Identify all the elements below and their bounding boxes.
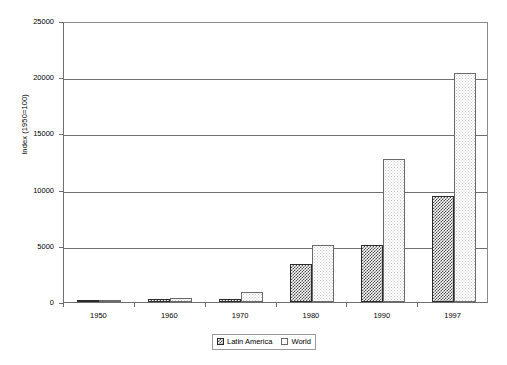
bar-world-1980 bbox=[312, 245, 334, 302]
x-tick-label: 1950 bbox=[90, 311, 107, 320]
gridline bbox=[64, 135, 487, 136]
bar-world-1950 bbox=[99, 300, 121, 302]
bar-latin-america-1960 bbox=[148, 299, 170, 302]
x-tick-mark bbox=[205, 303, 206, 307]
x-tick-mark bbox=[346, 303, 347, 307]
y-axis-ticks: 0500010000150002000025000 bbox=[0, 0, 63, 365]
bar-world-1970 bbox=[241, 292, 263, 302]
legend-entry-latin-america[interactable]: Latin America bbox=[217, 337, 272, 346]
bar-world-1990 bbox=[383, 159, 405, 302]
bar-latin-america-1990 bbox=[361, 245, 383, 302]
x-tick-label: 1997 bbox=[444, 311, 461, 320]
y-tick-label: 25000 bbox=[33, 17, 54, 26]
legend-label: Latin America bbox=[227, 337, 272, 346]
gridline bbox=[64, 248, 487, 249]
x-axis-ticks: 195019601970198019901997 bbox=[63, 303, 488, 327]
bar-latin-america-1980 bbox=[290, 264, 312, 302]
y-tick-label: 10000 bbox=[33, 186, 54, 195]
gridline bbox=[64, 79, 487, 80]
y-tick-label: 15000 bbox=[33, 129, 54, 138]
gridline bbox=[64, 192, 487, 193]
x-tick-mark bbox=[134, 303, 135, 307]
x-tick-label: 1970 bbox=[232, 311, 249, 320]
checkered-dark-swatch bbox=[217, 338, 224, 345]
chart-legend: Latin AmericaWorld bbox=[212, 334, 316, 350]
bar-latin-america-1997 bbox=[432, 196, 454, 302]
x-tick-mark bbox=[417, 303, 418, 307]
x-tick-label: 1990 bbox=[373, 311, 390, 320]
y-tick-label: 0 bbox=[50, 298, 54, 307]
y-tick-label: 5000 bbox=[37, 242, 54, 251]
white-outline-swatch bbox=[281, 338, 288, 345]
x-tick-label: 1960 bbox=[161, 311, 178, 320]
bar-world-1960 bbox=[170, 298, 192, 302]
bar-chart-figure: Index (1950=100) 05000100001500020000250… bbox=[0, 0, 507, 365]
y-tick-label: 20000 bbox=[33, 73, 54, 82]
x-tick-mark bbox=[276, 303, 277, 307]
legend-label: World bbox=[291, 337, 310, 346]
legend-entry-world[interactable]: World bbox=[281, 337, 310, 346]
x-tick-mark bbox=[63, 303, 64, 307]
x-tick-label: 1980 bbox=[303, 311, 320, 320]
bar-world-1997 bbox=[454, 73, 476, 302]
bar-latin-america-1950 bbox=[77, 300, 99, 302]
plot-area bbox=[63, 22, 488, 303]
bar-latin-america-1970 bbox=[219, 299, 241, 302]
